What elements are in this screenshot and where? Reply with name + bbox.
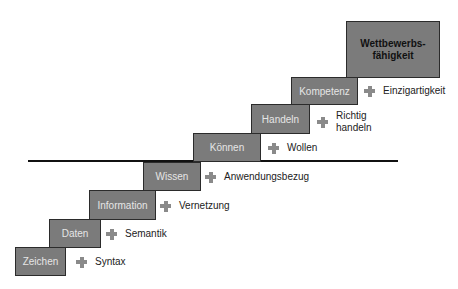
addition-einzigartigkeit: Einzigartigkeit: [364, 85, 445, 97]
plus-icon: [106, 229, 117, 240]
step-label: Können: [210, 142, 244, 153]
addition-syntax: Syntax: [76, 256, 126, 268]
top-label-line2: fähigkeit: [372, 50, 413, 62]
addition-label: Vernetzung: [179, 200, 230, 212]
step-koennen: Können: [193, 133, 261, 162]
step-wettbewerbsfaehigkeit: Wettbewerbs-fähigkeit: [346, 21, 440, 78]
plus-icon: [160, 201, 171, 212]
step-information: Information: [89, 190, 156, 220]
step-kompetenz: Kompetenz: [291, 77, 358, 105]
addition-wollen: Wollen: [268, 142, 317, 154]
plus-icon: [364, 86, 375, 97]
step-handeln: Handeln: [251, 104, 310, 134]
addition-richtig-handeln: Richtighandeln: [317, 110, 372, 134]
step-label: Information: [97, 200, 147, 211]
step-label: Handeln: [262, 114, 299, 125]
addition-label: Anwendungsbezug: [224, 171, 309, 183]
plus-icon: [317, 117, 328, 128]
step-daten: Daten: [49, 219, 101, 248]
step-zeichen: Zeichen: [15, 247, 66, 276]
step-label: Wissen: [156, 171, 189, 182]
step-label: Daten: [62, 228, 89, 239]
step-label: Zeichen: [23, 256, 59, 267]
step-wissen: Wissen: [143, 162, 201, 191]
addition-vernetzung: Vernetzung: [160, 200, 230, 212]
addition-semantik: Semantik: [106, 228, 167, 240]
addition-anwendungsbezug: Anwendungsbezug: [205, 171, 309, 183]
plus-icon: [205, 172, 216, 183]
addition-label-line1: Richtig: [336, 110, 372, 122]
addition-label-line2: handeln: [336, 122, 372, 134]
addition-label: Semantik: [125, 228, 167, 240]
plus-icon: [268, 143, 279, 154]
addition-label: Einzigartigkeit: [383, 85, 445, 97]
addition-label: Syntax: [95, 256, 126, 268]
plus-icon: [76, 257, 87, 268]
addition-label: Wollen: [287, 142, 317, 154]
top-label-line1: Wettbewerbs-: [360, 38, 425, 50]
step-label: Kompetenz: [299, 86, 350, 97]
